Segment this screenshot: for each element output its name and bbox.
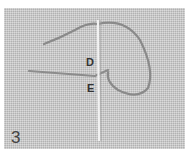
stitch-illustration: D E 3 bbox=[0, 0, 187, 157]
thread-and-needle bbox=[0, 0, 187, 157]
label-d: D bbox=[86, 56, 94, 68]
step-number: 3 bbox=[11, 128, 20, 148]
label-e: E bbox=[87, 82, 94, 94]
